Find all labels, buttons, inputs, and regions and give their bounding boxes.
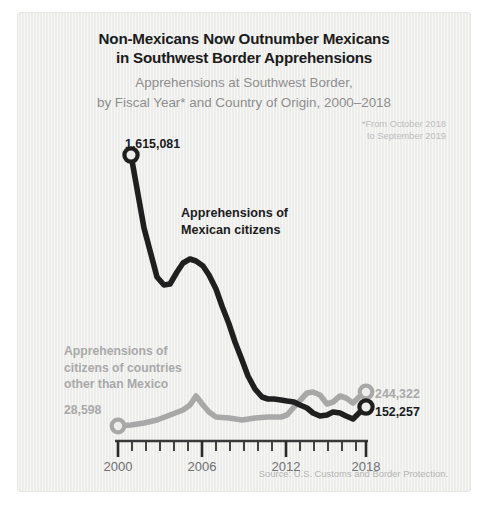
annotation-other-countries: Apprehensions of citizens of countries o…	[64, 343, 182, 393]
chart-screenshot: Non-Mexicans Now Outnumber Mexicans in S…	[0, 0, 488, 514]
series-line-other-than-mexico	[118, 392, 366, 426]
annotation-other-line-1: Apprehensions of	[64, 343, 182, 360]
annotation-mexican-citizens: Apprehensions of Mexican citizens	[181, 205, 288, 239]
annotation-other-line-2: citizens of countries	[64, 360, 182, 377]
x-tick-label-2000: 2000	[88, 459, 148, 474]
value-label-other-end: 244,322	[375, 387, 420, 401]
value-label-other-start: 28,598	[64, 403, 101, 417]
marker-other-start	[112, 420, 125, 433]
value-label-mexican-end: 152,257	[375, 405, 420, 419]
value-label-mexican-start: 1,615,081	[125, 137, 180, 151]
source-note: Source: U.S. Customs and Border Protecti…	[259, 468, 448, 479]
marker-mexican-end	[359, 400, 372, 413]
chart-card: Non-Mexicans Now Outnumber Mexicans in S…	[18, 13, 470, 491]
chart-svg	[18, 13, 470, 491]
marker-other-end	[360, 386, 373, 399]
annotation-mexican-line-1: Apprehensions of	[181, 205, 288, 222]
annotation-mexican-line-2: Mexican citizens	[181, 222, 288, 239]
x-tick-label-2006: 2006	[172, 459, 232, 474]
x-axis-minor-ticks	[132, 441, 356, 451]
line-chart-plot	[18, 13, 470, 491]
annotation-other-line-3: other than Mexico	[64, 376, 182, 393]
